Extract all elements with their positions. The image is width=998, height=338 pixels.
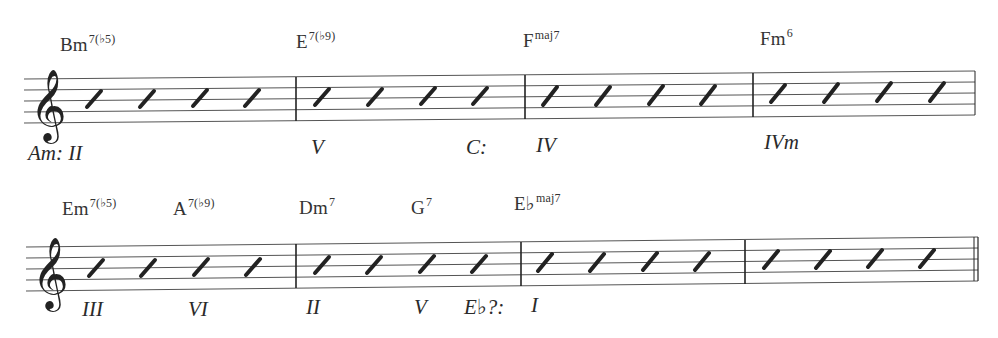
chord-symbol: Bm7(♭5) <box>60 34 116 56</box>
chord-extension: 7 <box>329 195 335 209</box>
harmonic-analysis: VI <box>188 297 208 322</box>
harmonic-analysis: II <box>306 295 320 320</box>
chord-symbol: E♭maj7 <box>514 192 561 215</box>
harmonic-analysis: III <box>82 297 103 322</box>
staff-system-2: 𝄞 Em7(♭5) A7(♭9) Dm7 G7 <box>0 170 998 338</box>
chord-root: E <box>296 31 308 52</box>
harmonic-analysis: Am: II <box>28 141 82 166</box>
harmonic-analysis: I <box>531 293 538 318</box>
svg-text:𝄞: 𝄞 <box>32 236 69 312</box>
staff-lines <box>26 237 978 291</box>
chord-extension: 7(♭9) <box>309 29 336 43</box>
staff-1: 𝄞 <box>0 0 998 170</box>
chord-extension: 7 <box>426 195 432 209</box>
chord-extension: maj7 <box>535 28 560 42</box>
chord-extension: 6 <box>787 26 793 40</box>
chord-root: G <box>411 197 425 218</box>
chord-root: Fm <box>760 28 786 49</box>
chord-symbol: Fmaj7 <box>523 30 560 52</box>
harmonic-analysis: E♭?: <box>464 295 504 320</box>
chord-symbol: A7(♭9) <box>173 198 215 220</box>
chord-root: Bm <box>60 34 88 55</box>
chord-extension: maj7 <box>536 191 561 205</box>
harmonic-analysis: IV <box>536 133 556 158</box>
chord-symbol: E7(♭9) <box>296 31 335 53</box>
chord-root: E♭ <box>514 193 535 214</box>
treble-clef-icon: 𝄞 <box>30 68 67 144</box>
chord-extension: 7(♭5) <box>89 32 116 46</box>
chord-symbol: G7 <box>411 197 432 219</box>
chord-root: A <box>173 198 187 219</box>
chord-extension: 7(♭9) <box>188 196 215 210</box>
chord-symbol: Dm7 <box>299 197 335 219</box>
chord-extension: 7(♭5) <box>90 196 117 210</box>
harmonic-analysis: V <box>414 295 427 320</box>
slash-marks <box>87 83 944 107</box>
harmonic-analysis: C: <box>466 135 487 160</box>
chord-root: F <box>523 30 534 51</box>
harmonic-analysis: IVm <box>764 130 799 155</box>
chord-symbol: Em7(♭5) <box>62 198 116 220</box>
chord-root: Em <box>62 198 89 219</box>
staff-system-1: 𝄞 Bm7(♭5) E7(♭9) Fmaj7 Fm6 <box>0 0 998 170</box>
harmonic-analysis: V <box>311 135 324 160</box>
staff-lines <box>24 71 975 123</box>
chord-symbol: Fm6 <box>760 28 793 50</box>
chord-root: Dm <box>299 197 328 218</box>
svg-text:𝄞: 𝄞 <box>30 68 67 144</box>
treble-clef-icon: 𝄞 <box>32 236 69 312</box>
